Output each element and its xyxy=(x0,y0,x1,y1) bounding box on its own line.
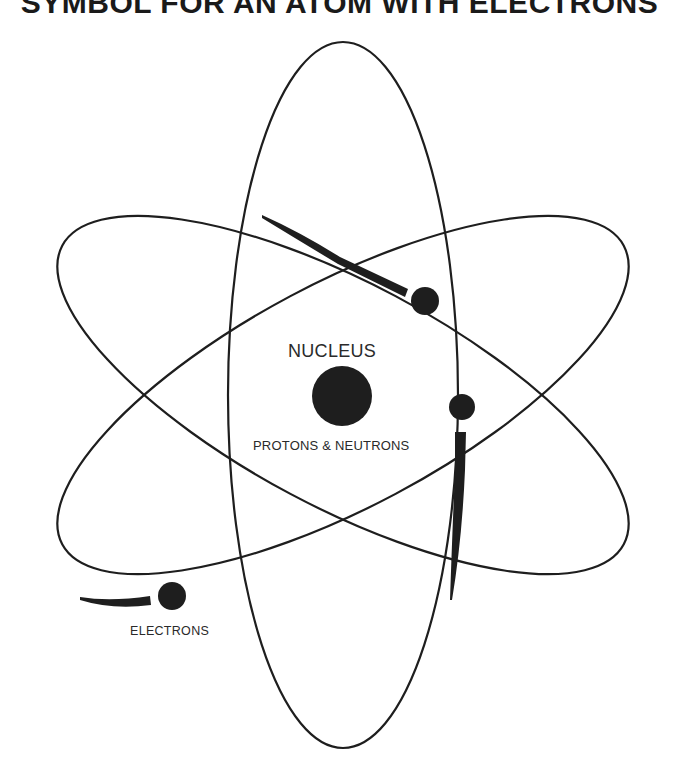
electron-trail-right xyxy=(450,432,466,600)
nucleus-label: NUCLEUS xyxy=(288,341,376,362)
nucleus xyxy=(312,366,372,426)
electron-upper xyxy=(411,287,439,315)
electron-right xyxy=(449,394,475,420)
electron-lower-left xyxy=(158,582,186,610)
electrons-label: ELECTRONS xyxy=(130,624,209,638)
electron-trail-upper xyxy=(262,215,408,297)
atom-diagram xyxy=(0,0,679,782)
electron-trail-lower-left xyxy=(80,596,151,607)
protons-neutrons-label: PROTONS & NEUTRONS xyxy=(253,438,410,453)
